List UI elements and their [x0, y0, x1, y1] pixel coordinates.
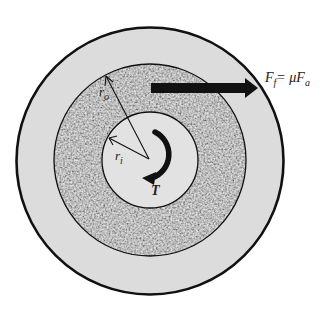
- friction-force-label: Ff= μFa: [265, 70, 310, 88]
- inner-radius-label: ri: [115, 148, 123, 166]
- clutch-diagram: [0, 0, 329, 314]
- torque-label: T: [151, 183, 160, 199]
- outer-radius-label: ro: [99, 84, 109, 102]
